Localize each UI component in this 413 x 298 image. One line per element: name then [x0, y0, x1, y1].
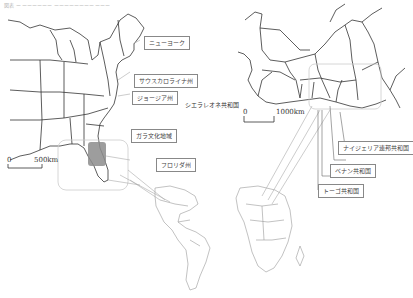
label-benin: ベナン共和国: [330, 164, 376, 178]
label-togo: トーゴ共和国: [318, 184, 364, 198]
label-south-carolina: サウスカロライナ州: [134, 74, 198, 88]
label-florida: フロリダ州: [156, 158, 196, 172]
world-map: [155, 186, 304, 290]
scale-africa-distance: 1000km: [276, 108, 305, 116]
scale-us-zero: 0: [7, 156, 11, 164]
map-figure: 図表 ー ーーーーーー ーーーーーーーー ーーー: [0, 0, 413, 298]
scale-bar-africa: [244, 116, 274, 122]
label-sierra-leone: シエラレオネ共和国: [185, 100, 239, 109]
scale-bar-us: [8, 164, 42, 168]
label-new-york: ニューヨーク: [144, 36, 190, 50]
label-gullah-region: ガラ文化地域: [131, 129, 177, 143]
gullah-region-highlight: [88, 142, 106, 166]
west-africa-map: [238, 4, 405, 108]
connector-lines: [106, 40, 330, 204]
eastern-us-map: [8, 14, 144, 182]
africa-focus-frame: [309, 64, 381, 109]
scale-us-distance: 500km: [34, 156, 58, 164]
label-georgia: ジョージア州: [132, 91, 178, 105]
scale-africa-zero: 0: [243, 108, 247, 116]
label-nigeria: ナイジェリア連邦共和国: [338, 141, 413, 155]
